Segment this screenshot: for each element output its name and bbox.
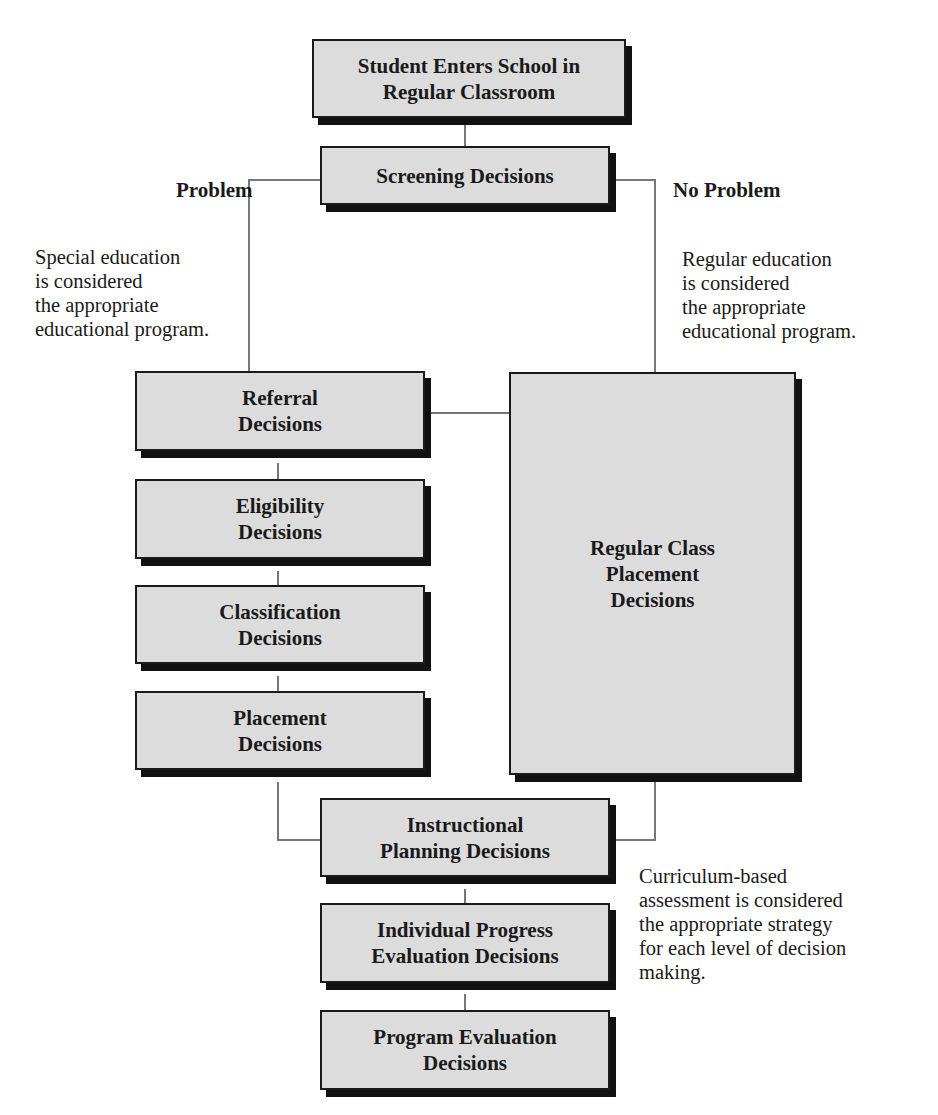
node-individual-progress-evaluation-decisions: Individual Progress Evaluation Decisions <box>320 903 610 983</box>
node-instructional-planning-decisions: Instructional Planning Decisions <box>320 798 610 877</box>
node-regular-class-placement-decisions: Regular Class Placement Decisions <box>509 372 796 775</box>
node-label: Placement Decisions <box>233 705 326 757</box>
node-program-evaluation-decisions: Program Evaluation Decisions <box>320 1010 610 1090</box>
node-label: Classification Decisions <box>219 599 340 651</box>
node-screening-decisions: Screening Decisions <box>320 146 610 205</box>
node-label: Instructional Planning Decisions <box>380 812 550 864</box>
node-placement-decisions: Placement Decisions <box>135 691 425 770</box>
node-label: Program Evaluation Decisions <box>373 1024 556 1076</box>
note-regular-education: Regular education is considered the appr… <box>682 247 856 343</box>
node-referral-decisions: Referral Decisions <box>135 371 425 451</box>
node-label: Screening Decisions <box>376 163 554 189</box>
branch-label-no-problem: No Problem <box>673 178 781 203</box>
node-label: Student Enters School in Regular Classro… <box>358 53 580 105</box>
node-label: Regular Class Placement Decisions <box>590 535 715 613</box>
node-eligibility-decisions: Eligibility Decisions <box>135 479 425 559</box>
node-classification-decisions: Classification Decisions <box>135 585 425 664</box>
branch-label-problem: Problem <box>176 178 253 203</box>
node-label: Eligibility Decisions <box>236 493 325 545</box>
node-label: Individual Progress Evaluation Decisions <box>371 917 558 969</box>
node-student-enters-school: Student Enters School in Regular Classro… <box>312 39 626 118</box>
note-special-education: Special education is considered the appr… <box>35 245 209 341</box>
node-label: Referral Decisions <box>238 385 322 437</box>
note-curriculum-based-assessment: Curriculum-based assessment is considere… <box>639 864 846 984</box>
